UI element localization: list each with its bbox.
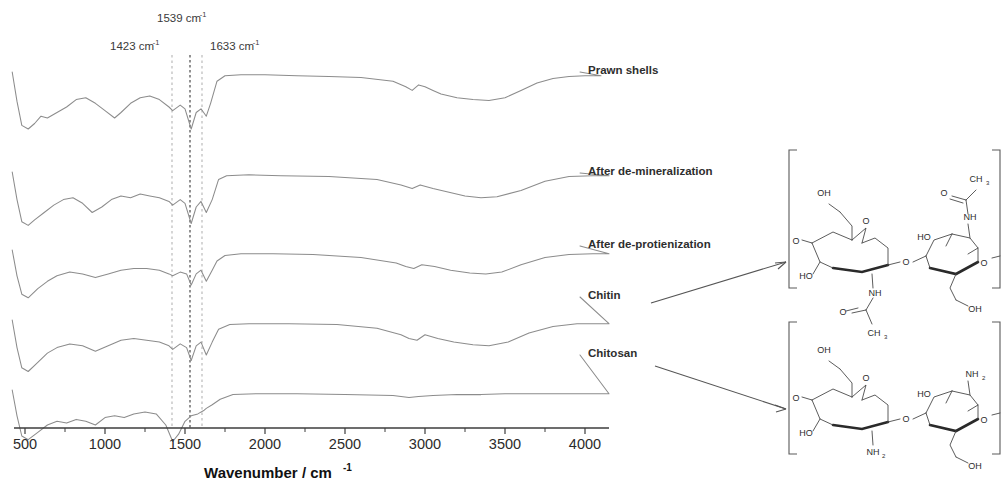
peak-label-sup-1633: -1 bbox=[253, 38, 260, 47]
atom-nh2-chitosan-2-sub: 2 bbox=[982, 375, 986, 381]
atom-o-chitin-ring1: O bbox=[862, 216, 869, 226]
spectrum-trace-after-de-mineralization bbox=[12, 172, 609, 225]
tick-label-2500: 2500 bbox=[329, 436, 361, 452]
x-axis: 5001000150020002500300035004000 bbox=[13, 428, 609, 452]
atom-nh2-chitosan-1-group: NH 2 bbox=[867, 447, 887, 459]
atom-oh-chitosan-2: OH bbox=[968, 461, 982, 471]
spectrum-trace-chitin bbox=[12, 297, 609, 372]
atom-o-chitin-ring2: O bbox=[980, 258, 987, 268]
atom-ch3-chitin-2-group: CH 3 bbox=[970, 174, 991, 186]
peak-label-sup-1423: -1 bbox=[153, 38, 160, 47]
structure-chitosan: OH O O HO NH 2 O HO O NH 2 OH bbox=[789, 322, 1000, 471]
atom-o-chitin-carbonyl1: O bbox=[839, 307, 846, 317]
atom-ch3-chitin-1-group: CH 3 bbox=[868, 328, 889, 340]
atom-oh-chitosan-1: OH bbox=[817, 345, 831, 355]
atom-o-glycosidic-chitin: O bbox=[902, 257, 909, 267]
atom-ch3-chitin-1-sub: 3 bbox=[884, 334, 888, 340]
structure-chitin: OH O O HO NH O CH 3 O HO O NH O CH bbox=[789, 150, 1000, 340]
atom-ho-chitin-1: HO bbox=[799, 271, 813, 281]
atom-oh-chitin-1: OH bbox=[817, 188, 831, 198]
atom-ch3-chitin-1: CH bbox=[868, 328, 881, 338]
atom-o-chitosan-ring2: O bbox=[980, 415, 987, 425]
atom-o-chitosan-left: O bbox=[792, 393, 799, 403]
atom-o-chitin-carbonyl2: O bbox=[940, 188, 947, 198]
ftir-figure: 1423 cm-11539 cm-11633 cm-1 Prawn shells… bbox=[0, 0, 1008, 486]
peak-label-sup-1539: -1 bbox=[200, 10, 207, 19]
atom-o-glycosidic-chitosan: O bbox=[902, 414, 909, 424]
arrow-chitosan-to-structure bbox=[655, 366, 786, 412]
trace-label-chitin: Chitin bbox=[588, 289, 621, 301]
tick-label-4000: 4000 bbox=[569, 436, 601, 452]
tick-label-3000: 3000 bbox=[409, 436, 441, 452]
trace-label-chitosan: Chitosan bbox=[588, 347, 637, 359]
atom-ho-chitosan-2: HO bbox=[917, 389, 931, 399]
atom-nh2-chitosan-2: NH bbox=[966, 369, 979, 379]
axis-title: Wavenumber / cm bbox=[204, 464, 332, 481]
tick-label-2000: 2000 bbox=[249, 436, 281, 452]
atom-ho-chitosan-1: HO bbox=[799, 428, 813, 438]
trace-labels: Prawn shellsAfter de-mineralizationAfter… bbox=[588, 64, 713, 359]
arrow-chitin-to-structure bbox=[651, 262, 786, 303]
atom-oh-chitin-2: OH bbox=[968, 304, 982, 314]
atom-o-chitosan-ring1: O bbox=[862, 373, 869, 383]
spectrum-trace-after-de-protienization bbox=[12, 246, 609, 298]
spectra-traces bbox=[12, 72, 609, 442]
atom-ho-chitin-2: HO bbox=[917, 232, 931, 242]
atom-o-chitin-left: O bbox=[792, 236, 799, 246]
atom-nh2-chitosan-2-group: NH 2 bbox=[966, 369, 987, 381]
peak-label-1633: 1633 cm bbox=[210, 40, 254, 52]
atom-nh-chitin-1: NH bbox=[869, 288, 882, 298]
tick-label-3500: 3500 bbox=[489, 436, 521, 452]
peak-label-1423: 1423 cm bbox=[110, 40, 154, 52]
trace-label-after-de-mineralization: After de-mineralization bbox=[588, 165, 713, 177]
trace-label-prawn-shells: Prawn shells bbox=[588, 64, 658, 76]
atom-nh-chitin-2: NH bbox=[964, 212, 977, 222]
axis-title-superscript: -1 bbox=[343, 462, 352, 473]
atom-nh2-chitosan-1: NH bbox=[867, 447, 880, 457]
tick-label-1500: 1500 bbox=[169, 436, 201, 452]
trace-label-after-de-protienization: After de-protienization bbox=[588, 238, 711, 250]
atom-ch3-chitin-2-sub: 3 bbox=[986, 180, 990, 186]
tick-label-1000: 1000 bbox=[89, 436, 121, 452]
atom-ch3-chitin-2: CH bbox=[970, 174, 983, 184]
tick-label-500: 500 bbox=[13, 436, 37, 452]
atom-nh2-chitosan-1-sub: 2 bbox=[882, 453, 886, 459]
figure-canvas: 1423 cm-11539 cm-11633 cm-1 Prawn shells… bbox=[0, 0, 1008, 486]
peak-label-1539: 1539 cm bbox=[157, 12, 201, 24]
peak-annotation-labels: 1423 cm-11539 cm-11633 cm-1 bbox=[110, 10, 259, 52]
spectrum-trace-prawn-shells bbox=[12, 72, 601, 129]
axis-title-group: Wavenumber / cm -1 bbox=[204, 462, 352, 481]
